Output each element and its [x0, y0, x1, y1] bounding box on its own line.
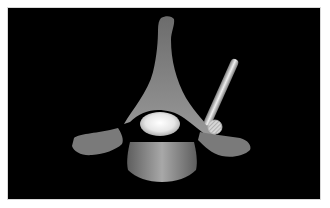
probe — [203, 58, 240, 127]
spinal-cord-shape — [140, 112, 180, 136]
probe-shaft-shape — [203, 58, 240, 127]
left-transverse-process-shape — [72, 128, 123, 155]
probe-tip-shape — [208, 120, 222, 134]
vertebra-illustration — [0, 0, 330, 208]
right-transverse-process-shape — [198, 132, 251, 157]
vertebral-body-shape — [127, 142, 197, 182]
